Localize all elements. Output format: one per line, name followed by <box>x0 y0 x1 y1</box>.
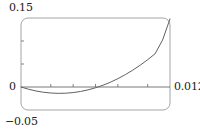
x-axis-max-label: 0.012 <box>174 81 200 92</box>
plot-figure: 0.15 −0.05 0 0.012 <box>0 0 200 132</box>
origin-label: 0 <box>9 81 16 92</box>
plot-frame <box>21 18 170 110</box>
y-axis-ticks <box>21 41 24 64</box>
y-axis-min-label: −0.05 <box>5 116 38 127</box>
y-axis-max-label: 0.15 <box>9 2 33 13</box>
plot-canvas <box>0 0 200 132</box>
data-curve <box>21 19 170 93</box>
